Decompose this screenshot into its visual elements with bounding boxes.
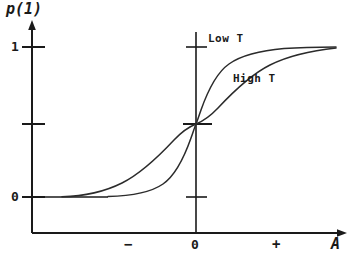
x-axis-title: A [331,237,340,252]
y-axis [28,20,36,233]
curve-label-high-t: High T [233,73,276,84]
x-tick-label-plus: + [272,237,280,251]
center-vertical-line [183,32,212,233]
plot-canvas [0,0,351,258]
curve-low-t [108,47,336,197]
y-tick-label-one: 1 [11,40,19,53]
x-tick-label-minus: − [124,237,132,251]
x-axis [32,229,347,237]
sigmoid-activation-figure: p(1) 1 0 − 0 + A Low T High T [0,0,351,258]
curve-high-t [62,48,336,197]
curve-label-low-t: Low T [208,33,244,44]
y-axis-title: p(1) [6,2,42,17]
y-tick-label-zero: 0 [11,190,19,203]
y-axis-ticks [22,47,45,197]
x-tick-label-zero: 0 [191,238,199,251]
